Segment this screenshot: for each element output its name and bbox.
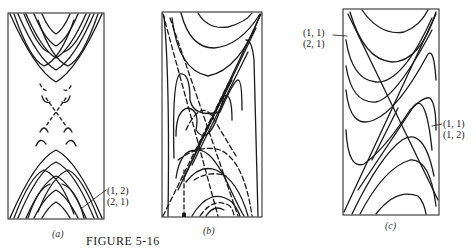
panel-a-frame bbox=[8, 13, 104, 219]
panel-c-annotation-left-line1: (1, 1) bbox=[303, 27, 325, 38]
panel-c-plot bbox=[333, 9, 442, 215]
panel-c-annotation-right-line2: (1, 2) bbox=[443, 129, 465, 140]
panel-a-plot bbox=[8, 13, 106, 219]
panel-c-caption: (c) bbox=[385, 220, 396, 231]
panel-c-annotation-left-line2: (2, 1) bbox=[303, 38, 325, 49]
figure-title: FIGURE 5-16 bbox=[86, 234, 160, 249]
panel-a-annotation: (1, 2) (2, 1) bbox=[107, 185, 129, 207]
panel-a-annotation-line2: (2, 1) bbox=[107, 196, 129, 207]
panel-a-caption: (a) bbox=[52, 228, 64, 239]
panel-a-annotation-line1: (1, 2) bbox=[107, 185, 129, 196]
panel-b-caption: (b) bbox=[203, 225, 215, 236]
panel-b-plot bbox=[162, 12, 262, 217]
panel-c-annotation-left: (1, 1) (2, 1) bbox=[303, 27, 325, 49]
panel-b-marker bbox=[182, 213, 186, 217]
panel-c-annotation-right-line1: (1, 1) bbox=[443, 118, 465, 129]
figure-5-16-diagram bbox=[0, 0, 476, 249]
panel-c-annotation-right: (1, 1) (1, 2) bbox=[443, 118, 465, 140]
